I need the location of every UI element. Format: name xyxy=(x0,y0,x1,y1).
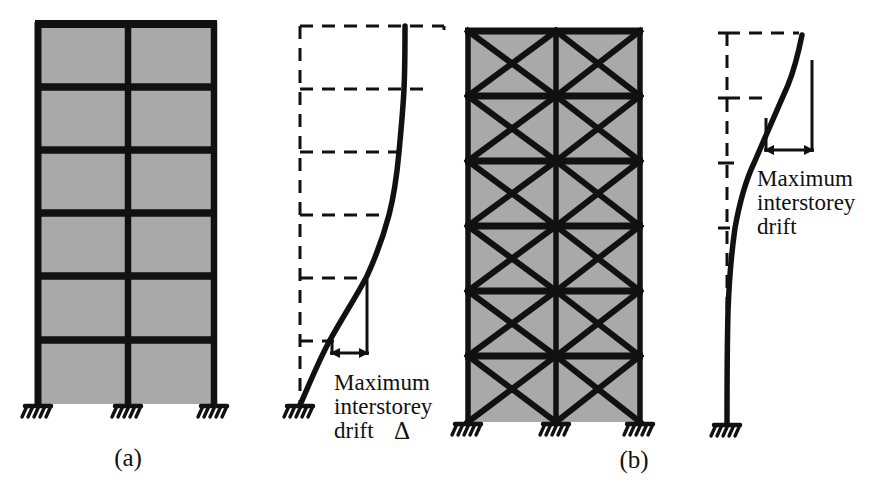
figure-canvas: (a) Maximum xyxy=(0,0,884,485)
caption-b: (b) xyxy=(619,446,648,474)
drift-label-line1-a: Maximum xyxy=(334,370,430,395)
moment-frame-deflection: Maximum interstorey drift Δ xyxy=(284,26,444,444)
support-fixed-a-right xyxy=(198,406,227,417)
support-fixed-deflection-b xyxy=(711,425,740,436)
support-fixed-b-right xyxy=(624,424,653,435)
support-fixed-a-left xyxy=(22,406,51,417)
drift-label-line3-a: drift xyxy=(334,418,374,443)
braced-frame-panel: (b) xyxy=(452,29,653,474)
moment-frame-panel: (a) xyxy=(22,22,227,472)
drift-label-line3-b: drift xyxy=(757,214,797,239)
support-fixed-b-left xyxy=(452,424,481,435)
drift-label-line2-b: interstorey xyxy=(757,190,856,215)
caption-a: (a) xyxy=(114,444,142,472)
structural-drift-figure: (a) Maximum xyxy=(0,0,884,485)
support-fixed-a-mid xyxy=(112,406,141,417)
drift-delta-symbol-a: Δ xyxy=(394,417,410,444)
support-fixed-deflection-a xyxy=(284,406,313,417)
drift-label-line2-a: interstorey xyxy=(334,394,433,419)
drift-label-line1-b: Maximum xyxy=(757,166,853,191)
braced-frame-deflection: Maximum interstorey drift xyxy=(711,33,856,436)
support-fixed-b-mid xyxy=(540,424,569,435)
